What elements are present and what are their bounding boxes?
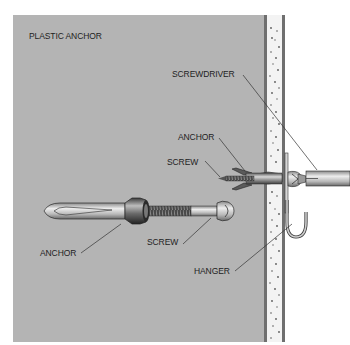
label-screw-installed: SCREW — [167, 158, 198, 167]
hanger — [285, 153, 306, 237]
label-screw-exploded: SCREW — [147, 238, 178, 247]
label-anchor-exploded: ANCHOR — [40, 249, 76, 258]
plastic-anchor-diagram: PLASTIC ANCHOR SCREWDRIVER ANCHOR SCREW … — [0, 0, 350, 345]
diagram-title: PLASTIC ANCHOR — [29, 32, 102, 41]
screwdriver — [298, 171, 350, 186]
diagram-canvas — [0, 0, 350, 345]
label-screwdriver: SCREWDRIVER — [172, 70, 235, 79]
label-hanger: HANGER — [194, 267, 230, 276]
label-anchor-installed: ANCHOR — [178, 133, 214, 142]
